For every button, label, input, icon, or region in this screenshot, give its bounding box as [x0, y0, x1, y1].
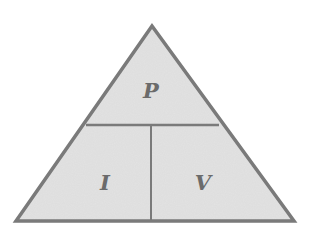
label-voltage: V	[195, 170, 214, 195]
formula-triangle-diagram: P I V	[0, 0, 309, 230]
label-power: P	[142, 78, 160, 103]
label-current: I	[99, 170, 111, 195]
triangle-fill	[16, 26, 294, 221]
